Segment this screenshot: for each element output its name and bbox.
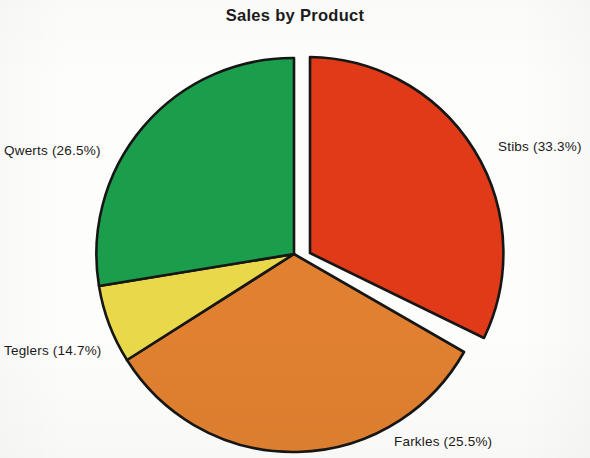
- pie-label-qwerts: Qwerts (26.5%): [4, 143, 101, 158]
- pie-slice-qwerts[interactable]: [96, 58, 294, 286]
- pie-label-teglers: Teglers (14.7%): [4, 343, 102, 358]
- pie-chart: [0, 0, 590, 458]
- pie-label-stibs: Stibs (33.3%): [498, 139, 582, 154]
- chart-canvas: Sales by Product Stibs (33.3%) Farkles (…: [0, 0, 590, 458]
- pie-label-farkles: Farkles (25.5%): [394, 434, 492, 449]
- chart-title: Sales by Product: [0, 6, 590, 25]
